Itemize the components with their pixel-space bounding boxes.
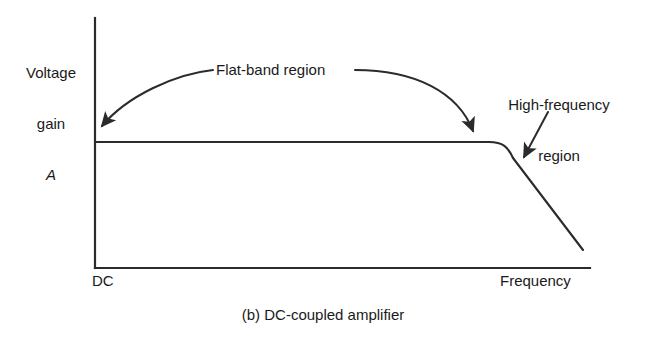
y-axis-label: Voltage gain A bbox=[14, 30, 88, 217]
high-frequency-label-line1: High-frequency bbox=[496, 96, 622, 113]
y-axis-label-line2: gain bbox=[14, 115, 88, 132]
y-axis-label-line1: Voltage bbox=[14, 64, 88, 81]
high-frequency-region-label: High-frequency region bbox=[496, 62, 622, 198]
x-axis-origin-label: DC bbox=[92, 272, 114, 289]
flat-band-right-arrow bbox=[355, 70, 473, 131]
flat-band-region-label: Flat-band region bbox=[216, 61, 325, 78]
figure-caption: (b) DC-coupled amplifier bbox=[0, 306, 646, 323]
figure-dc-coupled-amplifier-frequency-response: Voltage gain A Flat-band region High-fre… bbox=[0, 0, 646, 344]
x-axis-label: Frequency bbox=[500, 272, 571, 289]
high-frequency-label-line2: region bbox=[496, 147, 622, 164]
flat-band-left-arrow bbox=[102, 70, 213, 126]
y-axis-label-symbol: A bbox=[14, 166, 88, 183]
